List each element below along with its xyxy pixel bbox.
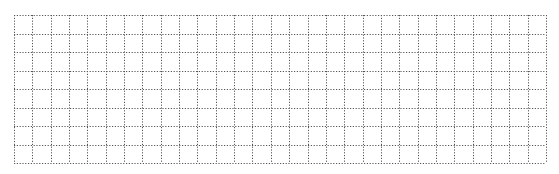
dotted-grid: [0, 0, 559, 174]
